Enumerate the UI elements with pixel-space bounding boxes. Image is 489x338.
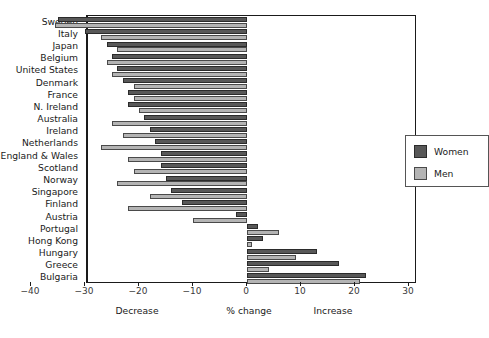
y-axis-label-united-states: United States: [16, 64, 78, 75]
bar-men-scotland: [134, 169, 247, 174]
bar-women-england-wales: [161, 151, 247, 156]
bar-men-denmark: [134, 84, 247, 89]
y-axis-label-portugal: Portugal: [40, 223, 78, 234]
bar-men-netherlands: [101, 145, 247, 150]
bar-men-n-ireland: [139, 108, 247, 113]
x-tick-mark-20: [354, 282, 355, 286]
bar-women-n-ireland: [128, 102, 247, 107]
legend-swatch-men-icon: [414, 167, 427, 180]
bar-women-sweden: [58, 17, 247, 22]
bar-women-portugal: [247, 224, 258, 229]
bar-women-italy: [85, 29, 247, 34]
y-axis-label-n-ireland: N. Ireland: [34, 101, 79, 112]
x-tick-label-20: 20: [348, 286, 359, 296]
bar-men-norway: [117, 181, 247, 186]
x-axis-annotations: Decrease % change Increase: [0, 305, 420, 319]
y-axis-label-australia: Australia: [37, 113, 78, 124]
x-tick-label-neg10: −10: [183, 286, 202, 296]
x-tick-mark-neg30: [84, 282, 85, 286]
y-axis-label-england-wales: England & Wales: [1, 150, 78, 161]
bar-women-singapore: [171, 188, 247, 193]
bar-women-france: [128, 90, 247, 95]
x-tick-mark-10: [300, 282, 301, 286]
bar-women-norway: [166, 176, 247, 181]
bar-men-ireland: [123, 133, 247, 138]
x-tick-label-10: 10: [294, 286, 305, 296]
y-axis-label-singapore: Singapore: [32, 186, 78, 197]
increase-label: Increase: [314, 305, 353, 316]
bar-women-united-states: [117, 66, 247, 71]
zero-reference-line: [87, 16, 88, 282]
percent-change-label: % change: [226, 305, 271, 316]
bar-men-belgium: [107, 60, 247, 65]
bar-women-denmark: [123, 78, 247, 83]
x-tick-mark-0: [246, 282, 247, 286]
decrease-label: Decrease: [115, 305, 158, 316]
y-axis-label-belgium: Belgium: [40, 52, 78, 63]
y-axis-label-japan: Japan: [52, 40, 78, 51]
bar-women-greece: [247, 261, 339, 266]
bar-women-netherlands: [155, 139, 247, 144]
y-axis-label-austria: Austria: [46, 211, 78, 222]
y-axis-label-bulgaria: Bulgaria: [40, 271, 78, 282]
x-tick-mark-30: [408, 282, 409, 286]
bar-women-scotland: [161, 163, 247, 168]
y-axis-label-norway: Norway: [43, 174, 78, 185]
x-axis-tick-labels: −40−30−20−100102030: [0, 286, 420, 298]
x-tick-label-neg20: −20: [129, 286, 148, 296]
bar-men-portugal: [247, 230, 279, 235]
bar-women-belgium: [112, 54, 247, 59]
bar-men-united-states: [112, 72, 247, 77]
x-tick-label-neg30: −30: [75, 286, 94, 296]
bar-men-sweden: [55, 23, 247, 28]
legend-item-women: Women: [414, 144, 469, 158]
plot-area: Women Men: [86, 15, 416, 283]
legend-swatch-women-icon: [414, 145, 427, 158]
bar-women-ireland: [150, 127, 247, 132]
bar-men-finland: [128, 206, 247, 211]
y-axis-label-hungary: Hungary: [39, 247, 78, 258]
bar-women-hong-kong: [247, 236, 263, 241]
bar-men-italy: [101, 35, 247, 40]
bar-women-australia: [144, 115, 247, 120]
bar-men-australia: [112, 121, 247, 126]
y-axis-label-greece: Greece: [45, 259, 78, 270]
y-axis-label-denmark: Denmark: [36, 77, 78, 88]
bar-men-bulgaria: [247, 279, 360, 284]
bar-men-hungary: [247, 255, 296, 260]
bar-men-france: [134, 96, 247, 101]
x-tick-mark-neg40: [30, 282, 31, 286]
legend-label-women: Women: [434, 146, 469, 157]
y-axis-category-labels: SwedenItalyJapanBelgiumUnited StatesDenm…: [0, 15, 82, 283]
y-axis-label-finland: Finland: [45, 198, 78, 209]
legend-label-men: Men: [434, 168, 453, 179]
bar-women-finland: [182, 200, 247, 205]
bar-men-greece: [247, 267, 269, 272]
legend-box: Women Men: [405, 135, 489, 187]
bar-men-singapore: [150, 194, 247, 199]
y-axis-label-italy: Italy: [58, 28, 78, 39]
legend-item-men: Men: [414, 166, 453, 180]
bar-women-japan: [107, 42, 247, 47]
bar-men-england-wales: [128, 157, 247, 162]
x-tick-label-0: 0: [243, 286, 249, 296]
y-axis-label-scotland: Scotland: [38, 162, 78, 173]
x-tick-label-30: 30: [402, 286, 413, 296]
x-tick-mark-neg10: [192, 282, 193, 286]
x-tick-mark-neg20: [138, 282, 139, 286]
y-axis-label-hong-kong: Hong Kong: [28, 235, 78, 246]
bar-women-bulgaria: [247, 273, 366, 278]
bar-men-japan: [117, 47, 247, 52]
x-tick-label-neg40: −40: [21, 286, 40, 296]
y-axis-label-netherlands: Netherlands: [22, 137, 78, 148]
y-axis-label-ireland: Ireland: [46, 125, 78, 136]
y-axis-label-france: France: [47, 89, 78, 100]
bar-women-hungary: [247, 249, 317, 254]
bar-men-austria: [193, 218, 247, 223]
bar-men-hong-kong: [247, 242, 252, 247]
bar-women-austria: [236, 212, 247, 217]
